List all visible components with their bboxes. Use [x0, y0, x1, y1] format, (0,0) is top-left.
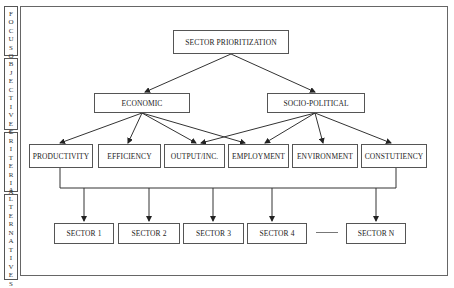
criteria-node-productivity: PRODUCTIVITY — [29, 144, 93, 168]
level-label-letter: S — [9, 280, 13, 288]
criteria-node-efficiency: EFFICIENCY — [98, 144, 161, 168]
criteria-node-constituency: CONSTUTIENCY — [361, 144, 427, 168]
ellipsis-separator — [316, 232, 338, 233]
alternative-node-sector-4: SECTOR 4 — [247, 223, 307, 244]
alternative-node-sector-2: SECTOR 2 — [118, 223, 180, 244]
criteria-node-environment: ENVIRONMENT — [292, 144, 358, 168]
focus-to-objective-arrow — [145, 54, 231, 92]
focus-node: SECTOR PRIORITIZATION — [173, 30, 289, 54]
objective-node-socio-political: SOCIO-POLITICAL — [267, 93, 365, 113]
economic-to-criterion-arrow — [142, 113, 245, 143]
focus-to-objective-arrow — [231, 54, 315, 92]
alternative-node-sector-n: SECTOR N — [346, 223, 406, 244]
criteria-node-employment: EMPLOYMENT — [228, 144, 289, 168]
socio-political-to-criterion-arrow — [265, 113, 315, 143]
criteria-node-output-inc: OUTPUT/INC. — [164, 144, 225, 168]
alternative-node-sector-1: SECTOR 1 — [54, 223, 114, 244]
socio-political-to-criterion-arrow — [315, 113, 323, 143]
alternative-node-sector-3: SECTOR 3 — [183, 223, 244, 244]
objective-node-economic: ECONOMIC — [94, 93, 190, 113]
socio-political-to-criterion-arrow — [201, 113, 315, 143]
socio-political-to-criterion-arrow — [315, 113, 391, 143]
economic-to-criterion-arrow — [142, 113, 196, 143]
